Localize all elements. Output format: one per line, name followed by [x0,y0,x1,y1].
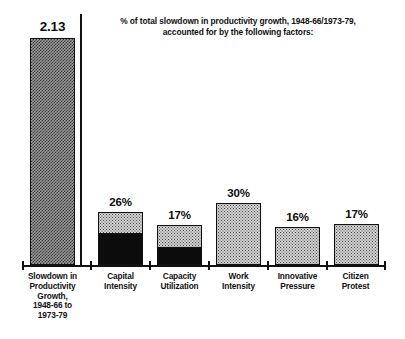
chart-title: % of total slowdown in productivity grow… [92,16,384,38]
axis-tick-5 [326,261,328,270]
category-label-line: Intensity [92,282,149,292]
bar-segment-screen [276,228,319,264]
value-label-slowdown-total: 2.13 [30,19,75,34]
value-label-capacity-utilization: 17% [157,209,202,221]
bar-segment-screen [335,225,378,264]
bar-segment-screen [158,226,201,247]
bar-segment-divider [99,233,142,235]
category-label-citizen-protest: Citizen Protest [327,272,384,292]
bar-segment-screen [31,39,74,264]
bar-slowdown-total [30,38,75,265]
axis-tick-1 [90,261,92,270]
category-label-line: Intensity [210,282,267,292]
panel-divider [80,14,82,266]
axis-tick-start [22,261,24,270]
x-axis-line [22,265,386,267]
axis-tick-end [384,261,386,270]
bar-chart: % of total slowdown in productivity grow… [0,0,405,339]
category-label-line: Pressure [266,282,329,292]
chart-title-line-2: accounted for by the following factors: [92,27,384,38]
bar-segment-divider [158,247,201,249]
bar-citizen-protest [334,224,379,265]
bar-segment-solid [158,247,201,264]
category-label-line: Utilization [149,282,210,292]
value-label-capital-intensity: 26% [98,196,143,208]
axis-tick-4 [267,261,269,270]
category-label-work-intensity: Work Intensity [210,272,267,292]
value-label-innovative-pressure: 16% [275,211,320,223]
category-label-capital-intensity: Capital Intensity [92,272,149,292]
bar-segment-solid [99,233,142,264]
axis-tick-2 [149,261,151,270]
bar-segment-screen [217,204,260,264]
category-label-innovative-pressure: Innovative Pressure [266,272,329,292]
category-label-line: 1973-79 [12,311,93,321]
bar-capital-intensity [98,212,143,265]
bar-innovative-pressure [275,227,320,265]
value-label-work-intensity: 30% [216,187,261,199]
bar-segment-screen [99,213,142,233]
axis-tick-3 [208,261,210,270]
bar-work-intensity [216,203,261,265]
bar-capacity-utilization [157,225,202,265]
category-label-capacity-utilization: Capacity Utilization [149,272,210,292]
chart-title-line-1: % of total slowdown in productivity grow… [92,16,384,27]
category-label-slowdown-total: Slowdown in Productivity Growth, 1948-66… [12,272,93,321]
value-label-citizen-protest: 17% [334,208,379,220]
category-label-line: Protest [327,282,384,292]
